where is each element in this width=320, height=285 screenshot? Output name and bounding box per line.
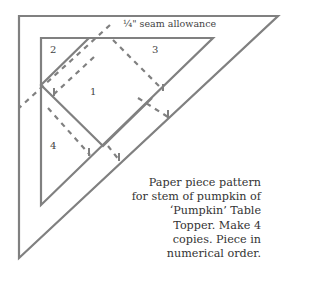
caption-line: copies. Piece in xyxy=(91,233,261,247)
caption-line: for stem of pumpkin of xyxy=(91,190,261,204)
piece-label-4: 4 xyxy=(50,140,56,151)
piece-label-2: 2 xyxy=(50,44,56,55)
caption-line: Paper piece pattern xyxy=(91,176,261,190)
pattern-caption: Paper piece pattern for stem of pumpkin … xyxy=(91,176,261,261)
piece-label-1: 1 xyxy=(90,86,96,97)
caption-line: Topper. Make 4 xyxy=(91,219,261,233)
piece-label-3: 3 xyxy=(152,44,158,55)
caption-line: ‘Pumpkin’ Table xyxy=(91,204,261,218)
caption-line: numerical order. xyxy=(91,247,261,261)
seam-allowance-label: ¼" seam allowance xyxy=(123,18,216,29)
